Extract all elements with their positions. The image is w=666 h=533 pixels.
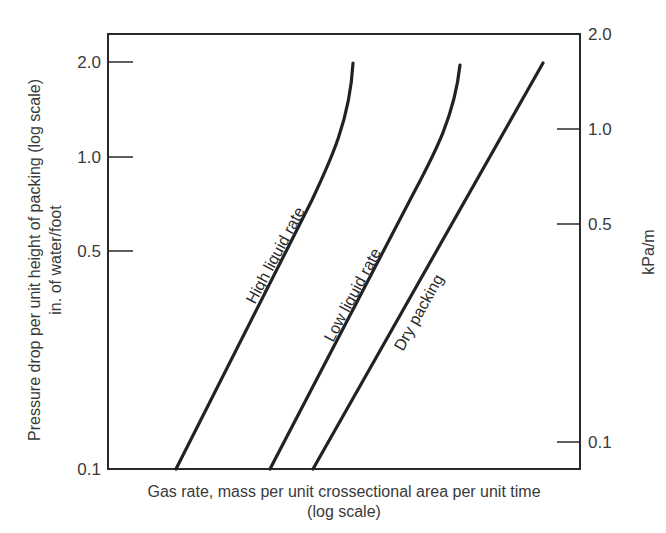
right-axis-title: kPa/m bbox=[640, 229, 657, 274]
left-y-axis: 2.0 1.0 0.5 0.1 bbox=[77, 53, 133, 479]
right-y-axis: 2.0 1.0 0.5 0.1 bbox=[557, 25, 612, 452]
x-axis-subtitle: (log scale) bbox=[307, 503, 381, 520]
chart-canvas: 2.0 1.0 0.5 0.1 2.0 1.0 0.5 0.1 High liq… bbox=[0, 0, 666, 533]
right-tick-label: 0.5 bbox=[588, 215, 612, 234]
left-tick-label: 1.0 bbox=[77, 148, 101, 167]
curve-dry-packing bbox=[313, 63, 543, 469]
x-axis-label: Gas rate, mass per unit crossectional ar… bbox=[147, 483, 540, 500]
label-high-liquid-rate: High liquid rate bbox=[243, 204, 308, 306]
right-tick-label: 0.1 bbox=[588, 433, 612, 452]
y-axis-units: in. of water/foot bbox=[47, 205, 64, 315]
plot-frame bbox=[108, 34, 580, 469]
right-tick-label: 1.0 bbox=[588, 120, 612, 139]
left-axis-title: Pressure drop per unit height of packing… bbox=[26, 79, 64, 441]
y-axis-label: Pressure drop per unit height of packing… bbox=[26, 79, 43, 441]
label-low-liquid-rate: Low liquid rate bbox=[321, 245, 384, 344]
right-tick-label: 2.0 bbox=[588, 25, 612, 44]
left-tick-label: 0.1 bbox=[77, 460, 101, 479]
left-tick-label: 2.0 bbox=[77, 53, 101, 72]
left-tick-label: 0.5 bbox=[77, 242, 101, 261]
